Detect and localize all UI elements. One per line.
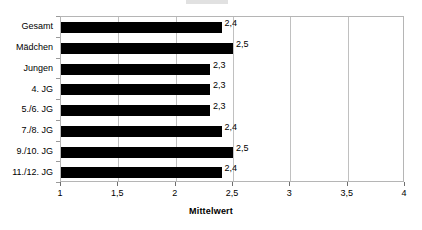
bar-row: 2,5 xyxy=(61,142,403,163)
bar-chart: GesamtMädchenJungen4. JG5./6. JG7./8. JG… xyxy=(0,0,422,230)
x-axis-tick xyxy=(289,182,290,186)
bar-value-label: 2,3 xyxy=(210,80,226,91)
x-axis-tick-label: 1,5 xyxy=(111,188,124,199)
bar-value-label: 2,5 xyxy=(233,39,249,50)
bar xyxy=(61,105,210,116)
bar xyxy=(61,64,210,75)
bar-row: 2,3 xyxy=(61,59,403,80)
bar-value-label: 2,4 xyxy=(222,163,238,174)
y-axis-tick-label: 7./8. JG xyxy=(21,120,53,141)
bar-row: 2,3 xyxy=(61,100,403,121)
x-axis-tick xyxy=(175,182,176,186)
bar-row: 2,4 xyxy=(61,17,403,38)
x-axis-tick-label: 1 xyxy=(57,188,62,199)
plot-area: 2,42,52,32,32,32,42,52,4 xyxy=(60,16,404,182)
y-axis-tick-label: 9./10. JG xyxy=(16,141,53,162)
x-axis-tick xyxy=(117,182,118,186)
bar-value-label: 2,5 xyxy=(233,143,249,154)
y-axis-tick-label: 4. JG xyxy=(31,78,53,99)
x-axis-tick-label: 2 xyxy=(172,188,177,199)
bar-row: 2,3 xyxy=(61,79,403,100)
x-axis-tick xyxy=(60,182,61,186)
bar-value-label: 2,4 xyxy=(222,18,238,29)
title-remnant xyxy=(186,0,228,4)
x-axis-title: Mittelwert xyxy=(0,206,422,216)
y-axis-tick-label: Jungen xyxy=(23,58,53,79)
bar xyxy=(61,147,233,158)
x-axis-tick-label: 3,5 xyxy=(340,188,353,199)
bar-value-label: 2,3 xyxy=(210,101,226,112)
bar-row: 2,4 xyxy=(61,162,403,183)
x-axis-tick xyxy=(232,182,233,186)
bar-row: 2,4 xyxy=(61,121,403,142)
bar-row: 2,5 xyxy=(61,38,403,59)
y-axis-labels: GesamtMädchenJungen4. JG5./6. JG7./8. JG… xyxy=(0,16,56,182)
x-axis-tick-label: 2,5 xyxy=(226,188,239,199)
bar xyxy=(61,167,222,178)
x-axis-tick xyxy=(347,182,348,186)
x-axis-tick-label: 4 xyxy=(401,188,406,199)
bar-value-label: 2,4 xyxy=(222,122,238,133)
x-axis-tick-label: 3 xyxy=(287,188,292,199)
y-axis-tick-label: 5./6. JG xyxy=(21,99,53,120)
bar xyxy=(61,43,233,54)
bar xyxy=(61,22,222,33)
x-axis-tick xyxy=(404,182,405,186)
bar xyxy=(61,126,222,137)
y-axis-tick-label: Gesamt xyxy=(21,16,53,37)
y-axis-tick-label: 11./12. JG xyxy=(12,161,53,182)
bar-value-label: 2,3 xyxy=(210,60,226,71)
bar xyxy=(61,84,210,95)
y-axis-tick-label: Mädchen xyxy=(16,37,53,58)
